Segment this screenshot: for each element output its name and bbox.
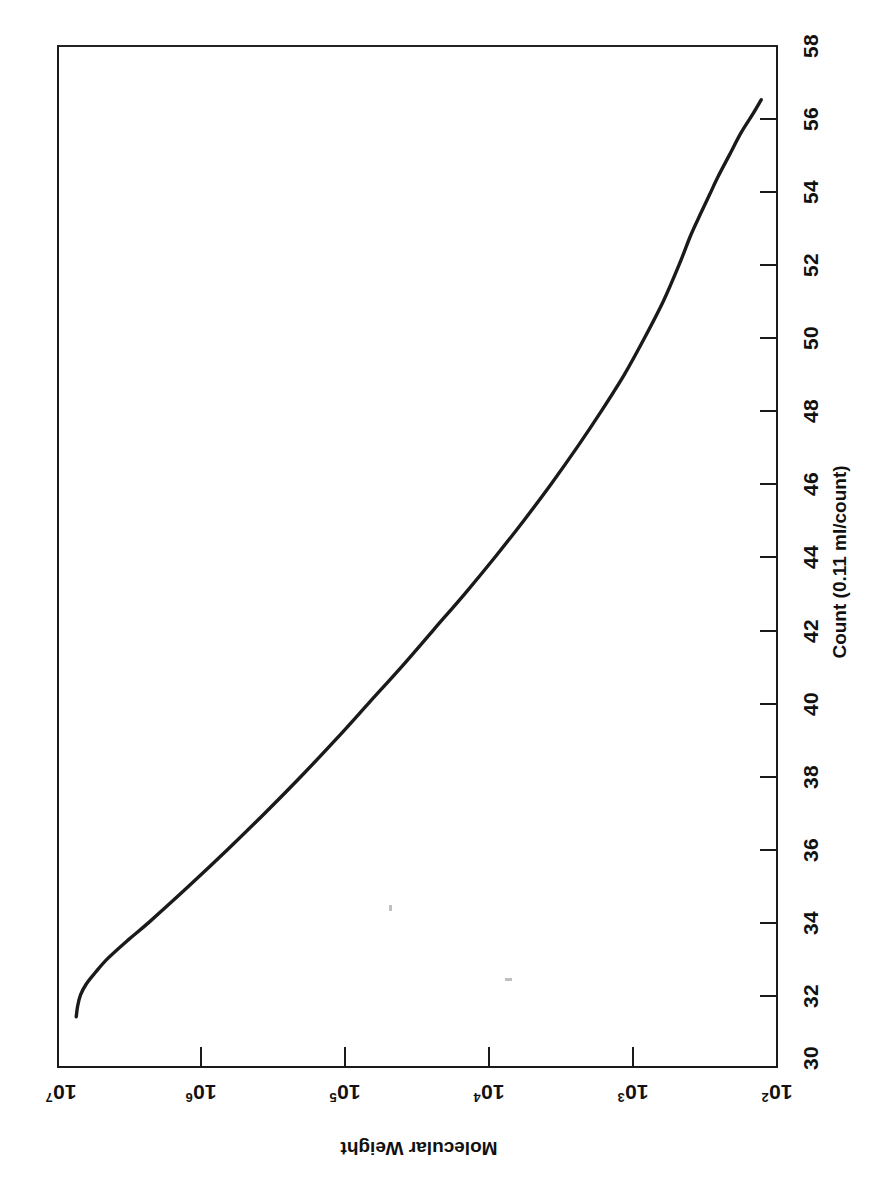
tick-count-36 bbox=[760, 849, 777, 851]
axis-label-count-56: 56 bbox=[799, 95, 823, 143]
mw-mantissa: 10 bbox=[337, 1081, 361, 1104]
axis-label-count-30: 30 bbox=[799, 1034, 823, 1082]
axis-label-count-44: 44 bbox=[799, 533, 823, 581]
mw-exponent: 2 bbox=[761, 1090, 768, 1105]
axis-label-count-48: 48 bbox=[799, 387, 823, 435]
mw-mantissa: 10 bbox=[769, 1081, 793, 1104]
tick-count-56 bbox=[760, 118, 777, 120]
tick-count-40 bbox=[760, 703, 777, 705]
mw-mantissa: 10 bbox=[193, 1081, 217, 1104]
axis-label-count-46: 46 bbox=[799, 460, 823, 508]
tick-mw-1e4 bbox=[488, 1047, 490, 1066]
mw-exponent: 6 bbox=[185, 1090, 192, 1105]
axis-title-count: Count (0.11 ml/count) bbox=[829, 447, 851, 677]
axis-label-mw-1e6: 106 bbox=[179, 1080, 223, 1105]
plot-area bbox=[57, 45, 778, 1068]
tick-count-46 bbox=[760, 483, 777, 485]
tick-count-48 bbox=[760, 410, 777, 412]
axis-label-mw-1e3: 103 bbox=[611, 1080, 655, 1105]
axis-label-count-38: 38 bbox=[799, 753, 823, 801]
tick-count-32 bbox=[760, 995, 777, 997]
axis-label-count-42: 42 bbox=[799, 607, 823, 655]
axis-label-mw-1e7: 107 bbox=[39, 1080, 83, 1105]
mw-exponent: 5 bbox=[329, 1090, 336, 1105]
mw-exponent: 7 bbox=[45, 1090, 52, 1105]
axis-label-mw-1e2: 102 bbox=[755, 1080, 799, 1105]
axis-label-mw-1e5: 105 bbox=[323, 1080, 367, 1105]
axis-label-count-36: 36 bbox=[799, 826, 823, 874]
axis-label-count-40: 40 bbox=[799, 680, 823, 728]
tick-count-54 bbox=[760, 191, 777, 193]
tick-count-42 bbox=[760, 630, 777, 632]
axis-label-count-58: 58 bbox=[799, 22, 823, 70]
tick-mw-1e3 bbox=[632, 1047, 634, 1066]
scan-speck bbox=[389, 905, 392, 911]
axis-label-count-54: 54 bbox=[799, 168, 823, 216]
axis-label-mw-1e4: 104 bbox=[467, 1080, 511, 1105]
mw-mantissa: 10 bbox=[53, 1081, 77, 1104]
mw-mantissa: 10 bbox=[625, 1081, 649, 1104]
tick-mw-1e5 bbox=[344, 1047, 346, 1066]
tick-count-38 bbox=[760, 776, 777, 778]
axis-label-count-34: 34 bbox=[799, 899, 823, 947]
mw-mantissa: 10 bbox=[481, 1081, 505, 1104]
scan-speck bbox=[505, 978, 512, 981]
chart-figure: 107 106 105 104 103 102 Molecular Weight… bbox=[0, 0, 877, 1186]
axis-title-molecular-weight: Molecular Weight bbox=[283, 1137, 555, 1159]
mw-exponent: 4 bbox=[473, 1090, 480, 1105]
tick-count-52 bbox=[760, 264, 777, 266]
tick-mw-1e6 bbox=[200, 1047, 202, 1066]
tick-count-34 bbox=[760, 922, 777, 924]
axis-label-count-52: 52 bbox=[799, 241, 823, 289]
mw-exponent: 3 bbox=[617, 1090, 624, 1105]
axis-label-count-32: 32 bbox=[799, 972, 823, 1020]
tick-count-44 bbox=[760, 556, 777, 558]
tick-count-50 bbox=[760, 337, 777, 339]
axis-label-count-50: 50 bbox=[799, 314, 823, 362]
